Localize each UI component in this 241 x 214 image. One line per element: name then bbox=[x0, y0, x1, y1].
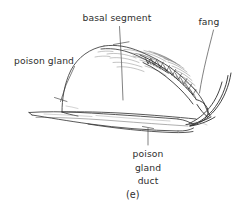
figure-container: basal segment poison gland fang poison g… bbox=[0, 0, 241, 214]
label-poison-gland-duct-line-2: gland bbox=[133, 161, 164, 175]
leader-line-basal-segment bbox=[120, 27, 124, 101]
label-poison-gland: poison gland bbox=[14, 56, 74, 67]
label-poison-gland-duct: poison gland duct bbox=[133, 147, 164, 188]
label-poison-gland-duct-line-1: poison bbox=[133, 147, 164, 161]
poison-gland-duct-line bbox=[36, 117, 188, 126]
label-poison-gland-duct-line-3: duct bbox=[133, 174, 164, 188]
leader-lines bbox=[55, 27, 214, 146]
lower-segment-left-tip bbox=[29, 113, 32, 116]
lower-segment-outline bbox=[29, 112, 194, 133]
label-fang: fang bbox=[199, 17, 220, 28]
label-basal-segment: basal segment bbox=[83, 13, 152, 24]
figure-caption: (e) bbox=[126, 190, 140, 201]
fang-outline bbox=[186, 73, 231, 126]
chelicera-line-drawing bbox=[0, 0, 241, 214]
leader-tick-basal-segment bbox=[114, 42, 130, 45]
lower-segment-right-end bbox=[178, 128, 194, 131]
basal-segment-outline bbox=[62, 45, 204, 119]
leader-line-fang bbox=[200, 30, 214, 93]
leader-line-poison-gland bbox=[61, 67, 75, 102]
